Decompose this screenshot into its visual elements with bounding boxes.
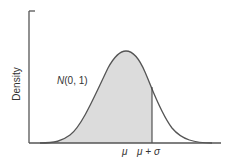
x-tick-mu-plus-sigma: μ + σ: [137, 146, 160, 157]
chart-canvas: [0, 0, 236, 166]
y-axis-label: Density: [6, 74, 26, 94]
distribution-params: (0, 1): [64, 75, 87, 86]
x-tick-mu: μ: [122, 146, 127, 157]
shaded-area: [40, 51, 152, 143]
distribution-label: N(0, 1): [57, 75, 88, 86]
